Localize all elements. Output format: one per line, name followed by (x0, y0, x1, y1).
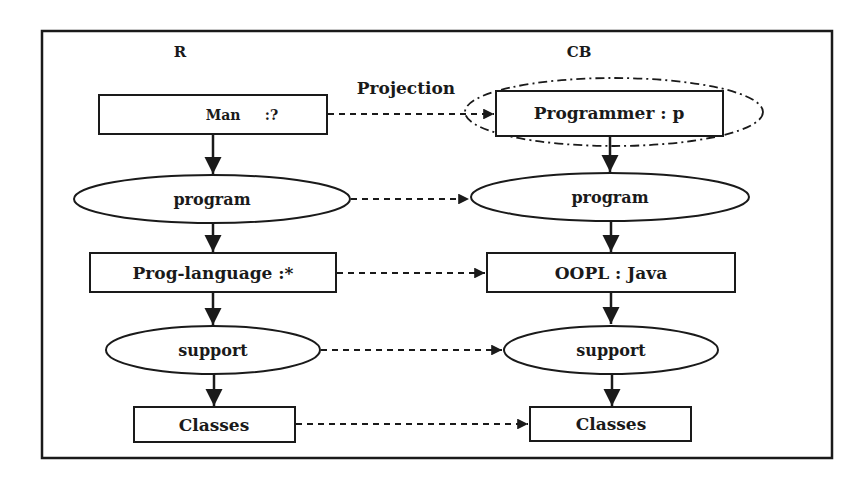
cb-node-oopl: OOPL : Java (487, 253, 735, 292)
r-node-man-label: Man :? (206, 107, 279, 123)
r-node-classes: Classes (134, 407, 295, 442)
cb-node-program-label: program (571, 188, 648, 207)
cb-node-program: program (471, 173, 749, 221)
cb-node-programmer: Programmer : p (496, 91, 723, 136)
cb-node-classes: Classes (530, 407, 691, 441)
column-label-r: R (174, 43, 187, 61)
r-node-support: support (106, 326, 320, 374)
column-label-cb: CB (567, 43, 592, 61)
cb-node-support-label: support (576, 341, 646, 360)
r-node-man: Man :? (99, 95, 327, 134)
cb-node-classes-label: Classes (576, 414, 647, 434)
r-node-program: program (74, 175, 350, 223)
projection-diagram: R CB Projection Man :? program Prog-lang… (0, 0, 866, 481)
r-node-classes-label: Classes (179, 415, 250, 435)
projection-label: Projection (357, 78, 455, 98)
r-node-program-label: program (173, 190, 250, 209)
cb-node-support: support (504, 326, 718, 374)
cb-node-programmer-label: Programmer : p (534, 103, 685, 123)
r-node-prog-language: Prog-language :* (90, 253, 336, 292)
r-node-prog-language-label: Prog-language :* (133, 263, 294, 283)
cb-node-oopl-label: OOPL : Java (555, 263, 667, 283)
r-node-support-label: support (178, 341, 248, 360)
